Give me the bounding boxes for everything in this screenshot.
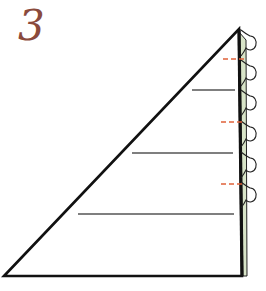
folding-diagram (0, 0, 266, 291)
